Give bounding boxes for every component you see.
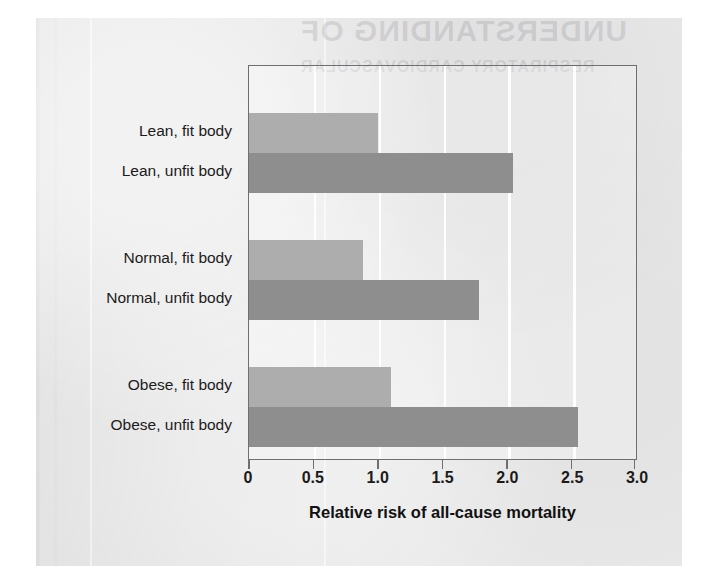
bar-chart: Lean, fit body Lean, unfit body Normal, …	[0, 0, 718, 582]
x-axis-title: Relative risk of all-cause mortality	[248, 503, 637, 522]
xtick-label-0: 0	[244, 469, 253, 487]
xtick-mark-3	[634, 460, 636, 469]
category-axis-labels: Lean, fit body Lean, unfit body Normal, …	[60, 65, 242, 460]
xtick-label-2.5: 2.5	[561, 469, 583, 487]
xtick-label-3.0: 3.0	[626, 469, 648, 487]
xtick-label-1.5: 1.5	[431, 469, 453, 487]
xtick-label-1.0: 1.0	[367, 469, 389, 487]
bar-lean-unfit	[249, 153, 513, 193]
bar-obese-fit	[249, 367, 391, 407]
category-label-obese-fit: Obese, fit body	[128, 377, 232, 393]
category-label-normal-fit: Normal, fit body	[123, 250, 232, 266]
xtick-mark-0	[248, 460, 250, 469]
bar-normal-fit	[249, 240, 363, 280]
bar-normal-unfit	[249, 280, 479, 320]
bar-obese-unfit	[249, 407, 578, 447]
category-label-normal-unfit: Normal, unfit body	[106, 290, 232, 306]
xtick-mark-2	[506, 460, 508, 469]
xtick-mark-1.5	[442, 460, 444, 469]
x-axis-tick-labels: 0 0.5 1.0 1.5 2.0 2.5 3.0	[248, 469, 637, 495]
category-label-obese-unfit: Obese, unfit body	[111, 417, 233, 433]
bar-lean-fit	[249, 113, 378, 153]
xtick-mark-2.5	[571, 460, 573, 469]
gridline-1.5	[444, 66, 447, 459]
plot-area	[248, 65, 637, 460]
xtick-mark-1	[377, 460, 379, 469]
category-label-lean-fit: Lean, fit body	[139, 123, 232, 139]
xtick-mark-0.5	[313, 460, 315, 469]
gridline-2.0	[508, 66, 511, 459]
category-label-lean-unfit: Lean, unfit body	[122, 163, 232, 179]
xtick-label-0.5: 0.5	[302, 469, 324, 487]
scanned-page: UNDERSTANDING OF RESPIRATORY CARDIOVASCU…	[0, 0, 718, 582]
gridline-2.5	[573, 66, 576, 459]
x-axis-ticks	[248, 460, 637, 469]
xtick-label-2.0: 2.0	[496, 469, 518, 487]
